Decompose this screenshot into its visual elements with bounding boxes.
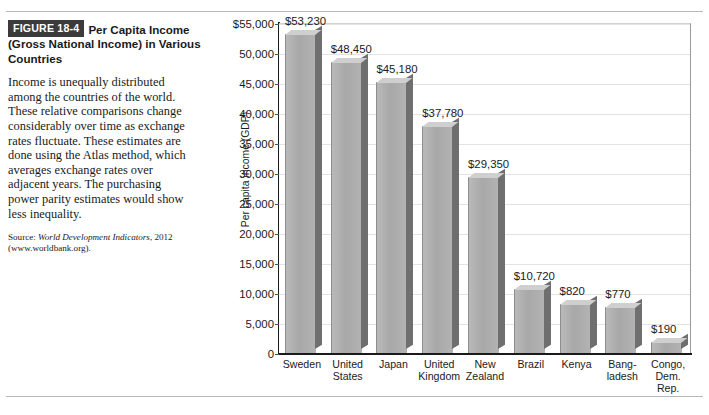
bar-top-face [468,173,504,178]
bar-value-label: $190 [651,323,676,335]
bar [514,289,544,353]
bar [422,126,452,353]
bar-side-face [315,25,322,349]
y-axis-tick-label: $55,000 [233,18,274,30]
bar-front-face [651,342,682,353]
bar-front-face [331,62,362,353]
figure-page: FIGURE 18-4Per Capita Income (Gross Nati… [0,0,709,415]
top-divider [6,11,703,12]
y-axis-tick-mark [275,354,279,355]
bar-front-face [468,177,499,353]
figure-caption-column: FIGURE 18-4Per Capita Income (Gross Nati… [8,20,208,255]
y-axis-tick-label: 45,000 [239,78,274,90]
gridline [279,24,690,25]
y-axis-tick-label: 15,000 [239,258,274,270]
bar-side-face [452,118,459,349]
bar-chart: Per capita income (GDP) $55,00050,00045,… [222,14,702,396]
bar-side-face [544,280,551,349]
bar [560,304,590,353]
bar-value-label: $53,230 [285,15,326,27]
bar [331,62,361,353]
category-label-line: Rep. [639,383,697,395]
bar-front-face [560,304,591,353]
bar-value-label: $10,720 [514,270,555,282]
bar-top-face [514,285,550,290]
bar [376,82,406,353]
bar-side-face [406,74,413,349]
figure-description: Income is unequally distributed among th… [8,75,194,221]
y-axis-tick-mark [275,294,279,295]
y-axis-tick-label: 35,000 [239,138,274,150]
y-axis-tick-mark [275,264,279,265]
y-axis-tick-label: 10,000 [239,288,274,300]
category-label-line: Zealand [456,371,514,383]
y-axis-tick-label: 25,000 [239,198,274,210]
y-axis-tick-mark [275,84,279,85]
bar [605,307,635,353]
y-axis-tick-mark [275,204,279,205]
y-axis-tick-label: 5,000 [245,318,274,330]
bar-side-face [361,54,368,349]
y-axis-tick-mark [275,324,279,325]
y-axis-tick-label: 30,000 [239,168,274,180]
y-axis-tick-mark [275,174,279,175]
x-axis-line [278,353,692,355]
bar-top-face [651,338,687,343]
x-axis-category-label: Congo,Dem.Rep. [639,359,697,394]
figure-number-badge: FIGURE 18-4 [8,20,84,37]
y-axis-tick-mark [275,234,279,235]
bar-front-face [605,307,636,353]
bar-front-face [422,126,453,353]
bar-side-face [498,169,505,349]
bar-front-face [376,82,407,353]
bar-value-label: $45,180 [376,63,417,75]
bar-value-label: $820 [560,285,585,297]
bar-value-label: $37,780 [422,107,463,119]
bar [468,177,498,353]
category-label-line: States [319,371,377,383]
y-axis-tick-mark [275,54,279,55]
bar-front-face [514,289,545,353]
figure-heading: FIGURE 18-4Per Capita Income (Gross Nati… [8,20,208,66]
source-prefix: Source: [8,232,38,242]
bar-top-face [560,300,596,305]
y-axis-tick-label: 20,000 [239,228,274,240]
bar-front-face [285,34,316,353]
bar [285,34,315,353]
bottom-divider [6,396,703,397]
category-label-line: Dem. [639,371,697,383]
bar-top-face [285,30,321,35]
source-title: World Development Indicators [38,232,150,242]
bar-value-label: $29,350 [468,158,509,170]
y-axis-tick-mark [275,24,279,25]
y-axis-tick-label: 40,000 [239,108,274,120]
bar-value-label: $48,450 [331,43,372,55]
figure-source: Source: World Development Indicators, 20… [8,232,194,254]
y-axis-tick-label: 50,000 [239,48,274,60]
plot-area: $55,00050,00045,00040,00035,00030,00025,… [279,23,691,353]
bar-value-label: $770 [605,288,630,300]
bar [651,342,681,353]
y-axis-tick-mark [275,114,279,115]
y-axis-tick-mark [275,144,279,145]
